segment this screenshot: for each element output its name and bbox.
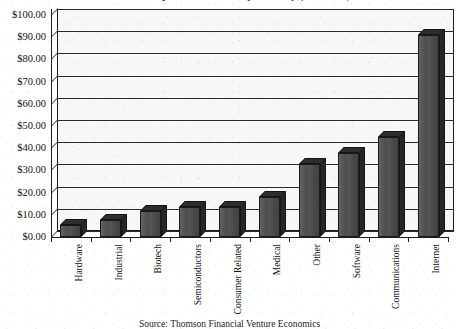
x-axis-tick	[91, 237, 92, 242]
bar-side-face	[121, 214, 127, 237]
x-axis-tick-label: Biotech	[154, 244, 164, 274]
x-axis: HardwareIndustrialBiotechSemiconductorsC…	[51, 237, 454, 319]
bar-front-face	[100, 220, 121, 237]
y-axis-tick-label: $70.00	[17, 77, 46, 87]
chart-title-cropped: Venture Capital Investment by Industry (…	[0, 0, 459, 9]
bar-front-face	[378, 137, 399, 237]
bar-side-face	[359, 147, 365, 237]
bar-side-face	[320, 158, 326, 237]
bar-side-face	[161, 205, 167, 237]
x-axis-tick	[448, 237, 449, 242]
x-axis-tick-label: Communications	[392, 244, 402, 309]
bar-front-face	[259, 197, 280, 237]
x-axis-tick-label: Hardware	[75, 244, 85, 281]
x-axis-tick-label: Semiconductors	[194, 244, 204, 305]
y-axis-tick-label: $20.00	[17, 188, 46, 198]
x-axis-tick-label: Medical	[273, 244, 283, 275]
y-axis-tick-label: $0.00	[22, 232, 46, 242]
chart-title: Venture Capital Investment by Industry (…	[0, 0, 459, 1]
y-axis-tick-label: $50.00	[17, 121, 46, 131]
y-axis-tick-label: $100.00	[12, 10, 46, 20]
bar-front-face	[418, 35, 439, 237]
x-axis-tick	[210, 237, 211, 242]
x-axis-tick	[170, 237, 171, 242]
x-axis-tick	[250, 237, 251, 242]
bar-front-face	[179, 207, 200, 237]
bar-side-face	[280, 191, 286, 237]
bar	[299, 164, 320, 237]
y-axis-tick-label: $40.00	[17, 143, 46, 153]
y-axis-tick-label: $10.00	[17, 210, 46, 220]
bar-side-face	[439, 29, 445, 237]
bar	[100, 220, 121, 237]
x-axis-tick	[329, 237, 330, 242]
x-axis-tick-label: Consumer Related	[234, 244, 244, 314]
bar-front-face	[219, 207, 240, 237]
bar	[179, 207, 200, 237]
source-caption: Source: Thomson Financial Venture Econom…	[0, 319, 459, 329]
bar	[140, 211, 161, 237]
x-axis-tick	[408, 237, 409, 242]
bar	[219, 207, 240, 237]
x-axis-tick	[369, 237, 370, 242]
bar	[338, 153, 359, 237]
x-axis-tick-label: Internet	[432, 244, 442, 274]
bar-front-face	[140, 211, 161, 237]
x-axis-tick-label: Other	[313, 244, 323, 266]
x-axis-tick-label: Software	[353, 244, 363, 278]
x-axis-tick-label: Industrial	[115, 244, 125, 280]
bar-front-face	[299, 164, 320, 237]
bar	[259, 197, 280, 237]
bar-side-face	[200, 201, 206, 237]
bar	[418, 35, 439, 237]
bar-side-face	[399, 131, 405, 237]
bar-series	[51, 9, 454, 237]
y-axis-tick-label: $80.00	[17, 54, 46, 64]
bar-front-face	[338, 153, 359, 237]
bar	[378, 137, 399, 237]
x-axis-tick	[130, 237, 131, 242]
bar	[60, 225, 81, 237]
y-axis-tick-label: $90.00	[17, 32, 46, 42]
x-axis-tick	[289, 237, 290, 242]
bar-side-face	[240, 201, 246, 237]
y-axis-tick-label: $60.00	[17, 99, 46, 109]
bar-front-face	[60, 225, 81, 237]
y-axis: $0.00$10.00$20.00$30.00$40.00$50.00$60.0…	[0, 9, 49, 237]
y-axis-tick-label: $30.00	[17, 165, 46, 175]
bar-chart: Venture Capital Investment by Industry (…	[0, 0, 459, 329]
x-axis-tick	[51, 237, 52, 242]
